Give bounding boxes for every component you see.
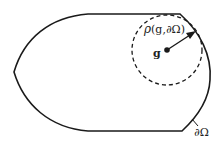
radius-label-args: (g,∂Ω) <box>151 23 185 36</box>
domain-diagram: ρ(g,∂Ω) g ∂Ω <box>0 0 220 141</box>
region-boundary-label: ∂Ω <box>194 126 209 139</box>
radius-arrow-shaft <box>167 35 190 50</box>
radius-label-rho: ρ <box>143 22 151 36</box>
radius-label: ρ(g,∂Ω) <box>143 22 185 36</box>
region-label-leader <box>192 119 198 126</box>
radius-arrow-head-icon <box>186 31 196 39</box>
point-g-label: g <box>153 47 161 60</box>
